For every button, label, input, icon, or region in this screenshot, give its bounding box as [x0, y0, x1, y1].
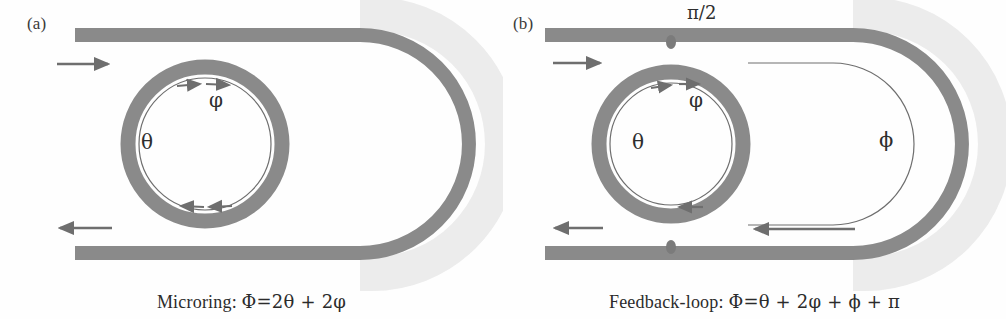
panel-a-phi-label: φ [209, 88, 223, 112]
bottom-coupler [666, 240, 676, 254]
panel-a-caption-name: Microring: [157, 292, 237, 312]
microring [599, 72, 743, 216]
ring-inner-guide-line [610, 83, 732, 205]
panel-b-label: (b) [513, 14, 533, 34]
panel-b-caption: Feedback-loop: Φ=θ + 2φ + ϕ + π [503, 291, 1006, 313]
panel-a-caption-formula: Φ=2θ + 2φ [242, 291, 347, 312]
ring-bottom-arrow-2 [181, 206, 204, 207]
panel-b-phi-label: φ [689, 88, 703, 112]
panel-b-loop-phi-label: ϕ [879, 128, 893, 152]
panel-b-diagram [503, 0, 1006, 319]
panel-b-coupler-phase-label: π/2 [687, 2, 716, 23]
panel-b: (b) π/2 θ φ ϕ Feedback-loop: Φ=θ + 2φ + … [503, 0, 1006, 319]
panel-b-caption-formula: Φ=θ + 2φ + ϕ + π [728, 291, 900, 312]
panel-a-theta-label: θ [141, 130, 153, 154]
panel-b-theta-label: θ [632, 130, 644, 154]
panel-b-caption-name: Feedback-loop: [609, 292, 724, 312]
panel-a-caption: Microring: Φ=2θ + 2φ [0, 291, 503, 313]
ring-inner-guide-line [139, 78, 271, 210]
bus-waveguide [545, 35, 962, 253]
top-coupler [666, 35, 676, 49]
ring-top-arrow-2 [206, 84, 229, 85]
panel-a-label: (a) [27, 14, 46, 34]
panel-a-diagram [0, 0, 503, 319]
figure-root: (a) θ φ Microring: Φ=2θ + 2φ [0, 0, 1006, 319]
ring-top-arrow-1 [177, 84, 200, 86]
ring-bottom-arrow-1 [209, 206, 232, 207]
panel-a: (a) θ φ Microring: Φ=2θ + 2φ [0, 0, 503, 319]
